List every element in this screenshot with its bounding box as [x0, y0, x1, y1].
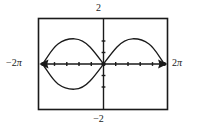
y-min-value: −2	[93, 113, 104, 124]
x-min-label: −2π	[6, 58, 22, 68]
y-max-value: 2	[96, 2, 101, 13]
y-min-label: −2	[0, 114, 197, 124]
x-min-pi-symbol: π	[17, 57, 22, 68]
x-min-value: −2	[6, 57, 17, 68]
plot-canvas	[0, 0, 197, 130]
graph-figure: 2 −2 −2π 2π	[0, 0, 197, 130]
x-max-pi-symbol: π	[177, 57, 182, 68]
y-max-label: 2	[0, 3, 197, 13]
x-max-label: 2π	[172, 58, 182, 68]
